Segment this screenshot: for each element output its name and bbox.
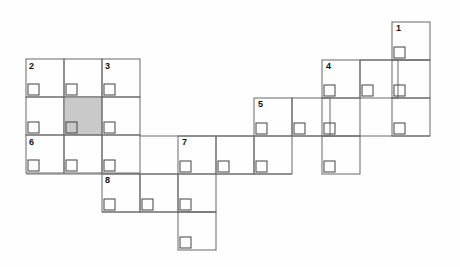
- cell-number-label: 2: [29, 61, 34, 71]
- grid-cell[interactable]: [322, 98, 360, 136]
- cell-number-label: 3: [105, 61, 110, 71]
- cell-number-label: 8: [105, 175, 110, 185]
- grid-cell[interactable]: [102, 135, 140, 173]
- grid-cell[interactable]: [140, 174, 178, 212]
- corner-notch-icon: [142, 199, 153, 210]
- cell-number-label: 1: [396, 23, 401, 33]
- corner-notch-icon: [180, 161, 191, 172]
- corner-notch-icon: [294, 123, 305, 134]
- corner-notch-icon: [362, 85, 373, 96]
- corner-notch-icon: [324, 161, 335, 172]
- grid-cell[interactable]: [26, 97, 64, 135]
- diagram-canvas: 12345678: [0, 0, 460, 267]
- corner-notch-icon: [180, 237, 191, 248]
- cell-number-label: 4: [326, 61, 331, 71]
- cell-number-label: 6: [29, 137, 34, 147]
- corner-notch-icon: [394, 85, 405, 96]
- corner-notch-icon: [104, 199, 115, 210]
- grid-cell[interactable]: [254, 136, 292, 174]
- grid-cell[interactable]: [322, 136, 360, 174]
- puzzle-grid-svg: 12345678: [0, 0, 460, 267]
- corner-notch-icon: [104, 160, 115, 171]
- grid-cell[interactable]: [102, 97, 140, 135]
- corner-notch-icon: [256, 123, 267, 134]
- corner-notch-icon: [28, 160, 39, 171]
- corner-notch-icon: [66, 160, 77, 171]
- grid-cell[interactable]: [64, 135, 102, 173]
- corner-notch-icon: [180, 199, 191, 210]
- grid-cell[interactable]: [392, 98, 430, 136]
- grid-cell[interactable]: [178, 212, 216, 250]
- grid-cell[interactable]: [178, 174, 216, 212]
- corner-notch-icon: [28, 84, 39, 95]
- corner-notch-icon: [394, 123, 405, 134]
- corner-notch-icon: [324, 85, 335, 96]
- corner-notch-icon: [104, 84, 115, 95]
- cell-number-label: 7: [182, 137, 187, 147]
- corner-notch-icon: [66, 84, 77, 95]
- cell-number-label: 5: [258, 99, 263, 109]
- shaded-cell[interactable]: [64, 97, 102, 135]
- corner-notch-icon: [256, 161, 267, 172]
- grid-cell[interactable]: [216, 136, 254, 174]
- corner-notch-icon: [28, 122, 39, 133]
- corner-notch-icon: [218, 161, 229, 172]
- corner-notch-icon: [394, 47, 405, 58]
- grid-cell[interactable]: [64, 59, 102, 97]
- corner-notch-icon: [104, 122, 115, 133]
